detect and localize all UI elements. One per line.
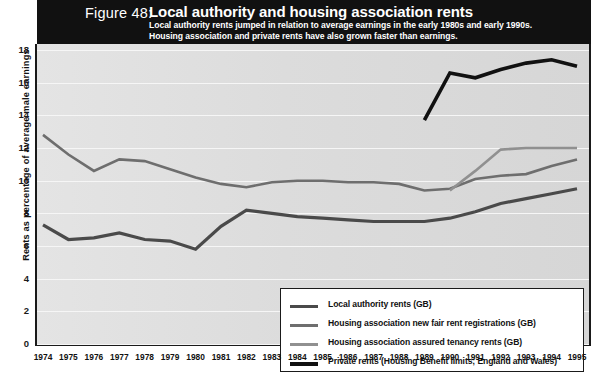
y-tick-label: 12 [5, 142, 29, 153]
y-tick-label: 4 [5, 273, 29, 284]
figure-panel: Figure 48: Local authority and housing a… [0, 0, 591, 373]
figure-header: Figure 48: Local authority and housing a… [37, 0, 591, 44]
figure-subtitle-line-1: Local authority rents jumped in relation… [149, 20, 591, 31]
legend-swatch [290, 343, 318, 346]
legend-swatch [290, 324, 318, 327]
series-line [450, 148, 577, 191]
legend-label: Housing association new fair rent regist… [328, 318, 536, 328]
legend-swatch [290, 305, 318, 308]
series-line [43, 189, 577, 250]
legend-swatch [290, 362, 318, 366]
figure-number: Figure 48: [85, 5, 152, 21]
y-tick-label: 10 [5, 175, 29, 186]
y-tick-label: 6 [5, 240, 29, 251]
y-tick-label: 8 [5, 207, 29, 218]
y-tick-label: 16 [5, 77, 29, 88]
figure-title: Local authority and housing association … [149, 3, 473, 20]
legend-label: Housing association assured tenancy rent… [328, 337, 522, 347]
figure-subtitle-line-2: Housing association and private rents ha… [149, 31, 591, 42]
series-line [43, 135, 577, 191]
series-line [424, 60, 577, 120]
x-tick-label: 1995 [562, 352, 591, 362]
y-tick-label: 0 [5, 338, 29, 349]
legend-label: Local authority rents (GB) [328, 299, 431, 309]
y-tick-label: 18 [5, 44, 29, 55]
plot-area: Local authority rents (GB)Housing associ… [37, 44, 591, 344]
figure-subtitle: Local authority rents jumped in relation… [149, 20, 591, 41]
y-tick-label: 14 [5, 109, 29, 120]
y-tick-label: 2 [5, 305, 29, 316]
